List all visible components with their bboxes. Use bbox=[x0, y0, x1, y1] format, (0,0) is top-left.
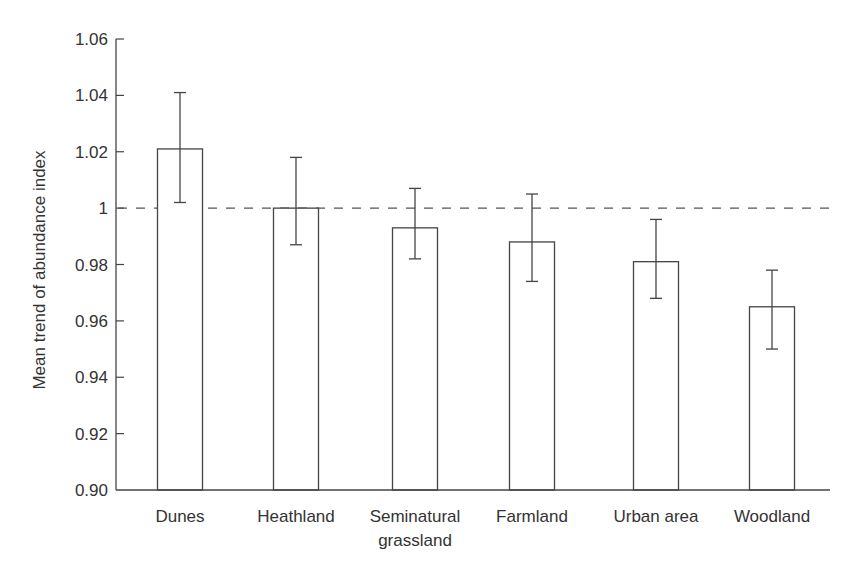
y-tick-label: 0.98 bbox=[75, 256, 108, 275]
x-category-label: Woodland bbox=[734, 507, 810, 526]
bars bbox=[158, 93, 795, 490]
x-category-label: Heathland bbox=[257, 507, 335, 526]
bar-woodland bbox=[750, 270, 795, 490]
y-tick-label: 1.06 bbox=[75, 30, 108, 49]
y-tick-label: 1.04 bbox=[75, 86, 108, 105]
bar-dunes bbox=[158, 93, 203, 490]
bar-chart: 1.061.041.0210.980.960.940.920.90 DunesH… bbox=[0, 0, 852, 579]
y-axis: 1.061.041.0210.980.960.940.920.90 bbox=[75, 30, 124, 500]
x-category-label: Seminatural bbox=[370, 507, 461, 526]
bar-heathland bbox=[274, 157, 319, 490]
bar-seminatural-grassland bbox=[393, 188, 438, 490]
x-category-label: Urban area bbox=[613, 507, 699, 526]
x-category-label: Dunes bbox=[155, 507, 204, 526]
y-tick-label: 1 bbox=[99, 199, 108, 218]
y-tick-label: 1.02 bbox=[75, 143, 108, 162]
bar-urban-area bbox=[634, 219, 679, 490]
y-axis-label: Mean trend of abundance index bbox=[30, 150, 49, 390]
y-tick-label: 0.96 bbox=[75, 312, 108, 331]
y-tick-label: 0.92 bbox=[75, 425, 108, 444]
x-category-label: Farmland bbox=[496, 507, 568, 526]
y-tick-label: 0.94 bbox=[75, 368, 108, 387]
y-tick-label: 0.90 bbox=[75, 481, 108, 500]
x-axis: DunesHeathlandSeminaturalgrasslandFarmla… bbox=[116, 490, 830, 550]
bar-rect bbox=[274, 208, 319, 490]
x-category-label: grassland bbox=[378, 531, 452, 550]
bar-rect bbox=[393, 228, 438, 490]
bar-farmland bbox=[510, 194, 555, 490]
